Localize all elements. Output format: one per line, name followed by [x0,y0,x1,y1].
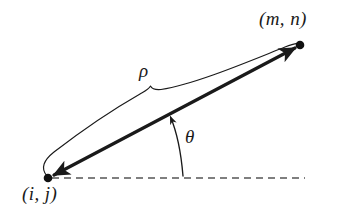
endpoint-dot-end [296,41,305,50]
length-label-rho: ρ [139,61,148,80]
endpoint-label-ij: (i, j) [22,184,57,203]
endpoint-label-mn: (m, n) [259,9,307,28]
angle-arc [171,117,184,176]
figure-canvas: (m, n) (i, j) ρ θ [0,0,350,216]
endpoint-dot-start [44,174,53,183]
angle-label-theta: θ [185,127,194,146]
double-headed-arrow [54,48,295,175]
